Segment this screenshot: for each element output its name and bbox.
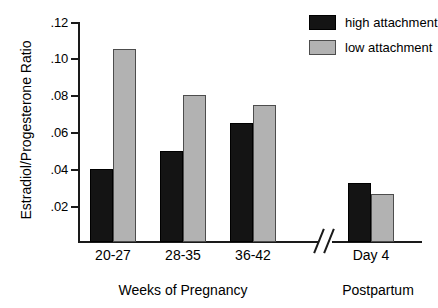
bar-high-attachment-20-27 — [90, 169, 113, 242]
legend: high attachment low attachment — [309, 12, 438, 62]
bar-high-attachment-day-4 — [348, 183, 371, 242]
legend-item-low-attachment: low attachment — [309, 37, 438, 57]
y-tick-label-002: .02 — [28, 200, 68, 213]
bar-low-attachment-28-35 — [183, 95, 206, 242]
bar-high-attachment-36-42 — [230, 123, 253, 242]
y-axis-line — [78, 22, 80, 243]
legend-label-high-attachment: high attachment — [345, 15, 438, 30]
x-axis-label-day-4: Day 4 — [326, 247, 416, 263]
bar-low-attachment-day-4 — [371, 194, 394, 242]
legend-swatch-high-attachment — [309, 15, 336, 30]
x-axis-label-36-42: 36-42 — [208, 247, 298, 263]
legend-swatch-low-attachment — [309, 40, 336, 55]
y-tick-label-010: .10 — [28, 52, 68, 65]
y-tick-label-004: .04 — [28, 163, 68, 176]
legend-item-high-attachment: high attachment — [309, 12, 438, 32]
bar-low-attachment-20-27 — [113, 49, 136, 242]
legend-label-low-attachment: low attachment — [345, 40, 432, 55]
y-tick-label-012: .12 — [28, 16, 68, 29]
x-axis-group-label-postpartum: Postpartum — [330, 282, 426, 298]
y-tick-label-008: .08 — [28, 89, 68, 102]
bar-high-attachment-28-35 — [160, 151, 183, 242]
y-tick-label-006: .06 — [28, 126, 68, 139]
x-axis-group-label-pregnancy: Weeks of Pregnancy — [78, 282, 288, 298]
bar-low-attachment-36-42 — [253, 105, 276, 242]
